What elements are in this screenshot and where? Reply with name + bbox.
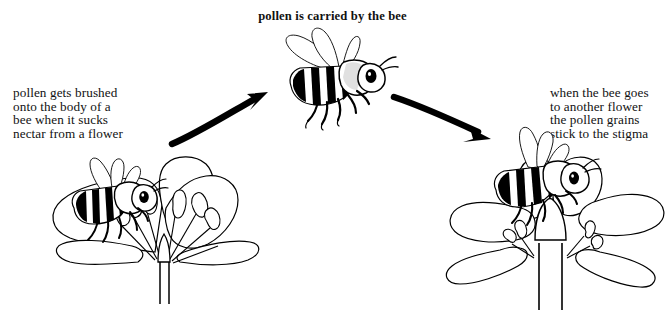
pollination-diagram: pollen is carried by the bee pollen gets… xyxy=(0,0,665,313)
flying-bee-illustration xyxy=(286,28,398,130)
caption-right: when the bee goes to another flower the … xyxy=(550,86,649,140)
diagram-artwork xyxy=(0,0,665,313)
curved-arrow-up-right-icon xyxy=(172,92,268,144)
flower-with-bee-depositing-pollen xyxy=(446,127,663,310)
caption-left: pollen gets brushed onto the body of a b… xyxy=(13,86,123,140)
diagram-title: pollen is carried by the bee xyxy=(0,10,665,24)
flower-with-bee-collecting-nectar xyxy=(53,157,259,304)
curved-arrow-down-right-icon xyxy=(394,97,491,142)
